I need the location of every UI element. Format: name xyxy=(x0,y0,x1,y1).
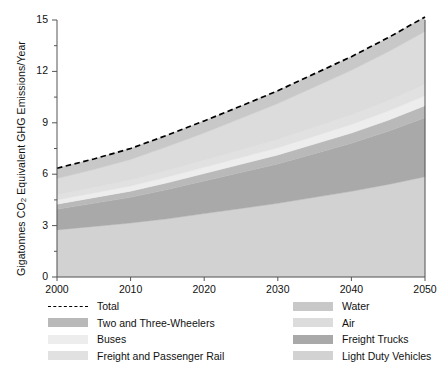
legend-item-label: Air xyxy=(342,317,355,329)
legend-swatch-icon xyxy=(293,335,333,344)
legend-item-two-and-three-wheelers[interactable]: Two and Three-Wheelers xyxy=(48,315,224,332)
chart-canvas xyxy=(0,0,445,292)
x-tick-label: 2000 xyxy=(37,283,77,295)
y-tick-label: 6 xyxy=(24,167,48,179)
y-axis-title-pre: Gigatonnes CO xyxy=(15,202,27,276)
legend-swatch-icon xyxy=(293,351,333,360)
legend-swatch-icon xyxy=(48,318,88,327)
legend-swatch-icon xyxy=(293,318,333,327)
legend-item-label: Water xyxy=(342,300,370,312)
legend-item-label: Two and Three-Wheelers xyxy=(97,317,215,329)
legend-dashed-line-icon xyxy=(48,302,88,311)
legend-item-total[interactable]: Total xyxy=(48,298,224,315)
legend-item-label: Buses xyxy=(97,333,126,345)
legend-item-water[interactable]: Water xyxy=(293,298,431,315)
legend-item-label: Total xyxy=(97,300,119,312)
legend-column-right: WaterAirFreight TrucksLight Duty Vehicle… xyxy=(293,298,431,364)
x-tick-label: 2050 xyxy=(405,283,445,295)
y-tick-label: 15 xyxy=(24,13,48,25)
figure-stacked-area-chart: Gigatonnes CO2 Equivalent GHG Emissions/… xyxy=(0,0,445,376)
legend-item-freight-trucks[interactable]: Freight Trucks xyxy=(293,331,431,348)
legend-item-label: Freight Trucks xyxy=(342,333,409,345)
legend-item-freight-and-passenger-rail[interactable]: Freight and Passenger Rail xyxy=(48,348,224,365)
legend-item-label: Freight and Passenger Rail xyxy=(97,350,224,362)
legend-item-air[interactable]: Air xyxy=(293,315,431,332)
legend-item-buses[interactable]: Buses xyxy=(48,331,224,348)
chart-legend: TotalTwo and Three-WheelersBusesFreight … xyxy=(0,298,445,364)
legend-column-left: TotalTwo and Three-WheelersBusesFreight … xyxy=(48,298,224,364)
x-tick-label: 2030 xyxy=(258,283,298,295)
y-tick-label: 3 xyxy=(24,219,48,231)
x-tick-label: 2010 xyxy=(111,283,151,295)
x-tick-label: 2020 xyxy=(184,283,224,295)
y-tick-label: 0 xyxy=(24,270,48,282)
y-tick-label: 12 xyxy=(24,64,48,76)
y-axis-title-sub: 2 xyxy=(19,198,28,203)
legend-swatch-icon xyxy=(48,351,88,360)
y-tick-label: 9 xyxy=(24,116,48,128)
legend-swatch-icon xyxy=(293,302,333,311)
legend-item-light-duty-vehicles[interactable]: Light Duty Vehicles xyxy=(293,348,431,365)
plot-area xyxy=(0,0,445,292)
legend-swatch-icon xyxy=(48,335,88,344)
x-tick-label: 2040 xyxy=(331,283,371,295)
figure-caption-cropped xyxy=(8,367,445,376)
legend-item-label: Light Duty Vehicles xyxy=(342,350,431,362)
